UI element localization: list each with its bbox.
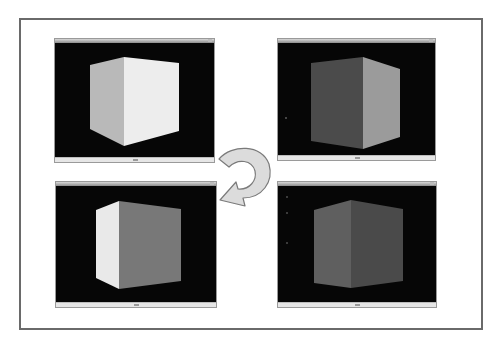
cube-scene (56, 182, 218, 309)
viewport-marker (286, 196, 288, 198)
close-button[interactable] (430, 182, 434, 185)
viewport-marker (285, 117, 287, 119)
cube-left-face (314, 200, 351, 288)
viewer-window-top-left (54, 38, 215, 163)
viewer-window-top-right (277, 38, 436, 161)
cube-left-face (311, 57, 363, 149)
viewer-window-bottom-right (277, 181, 437, 308)
rotate-arrow-icon (210, 140, 280, 220)
status-text (134, 304, 139, 306)
status-text (355, 304, 360, 306)
cube-right-face (124, 57, 179, 146)
title-bar[interactable] (278, 182, 436, 186)
cube-scene (278, 182, 438, 309)
cube-scene (278, 39, 437, 162)
close-button[interactable] (429, 39, 433, 42)
status-bar (56, 302, 216, 307)
cube-right-face (119, 201, 181, 289)
status-bar (278, 302, 436, 307)
cube-right-face (351, 200, 403, 288)
cube-right-face (363, 57, 400, 149)
title-bar[interactable] (56, 182, 216, 186)
viewer-window-bottom-left (55, 181, 217, 308)
cube-left-face (90, 57, 124, 146)
viewport-marker (286, 212, 288, 214)
status-text (133, 159, 138, 161)
close-button[interactable] (208, 39, 212, 42)
viewport-marker (286, 242, 288, 244)
status-bar (55, 157, 214, 162)
title-bar[interactable] (55, 39, 214, 43)
cube-scene (55, 39, 216, 164)
status-text (355, 157, 360, 159)
title-bar[interactable] (278, 39, 435, 43)
cube-left-face (96, 201, 119, 289)
status-bar (278, 155, 435, 160)
